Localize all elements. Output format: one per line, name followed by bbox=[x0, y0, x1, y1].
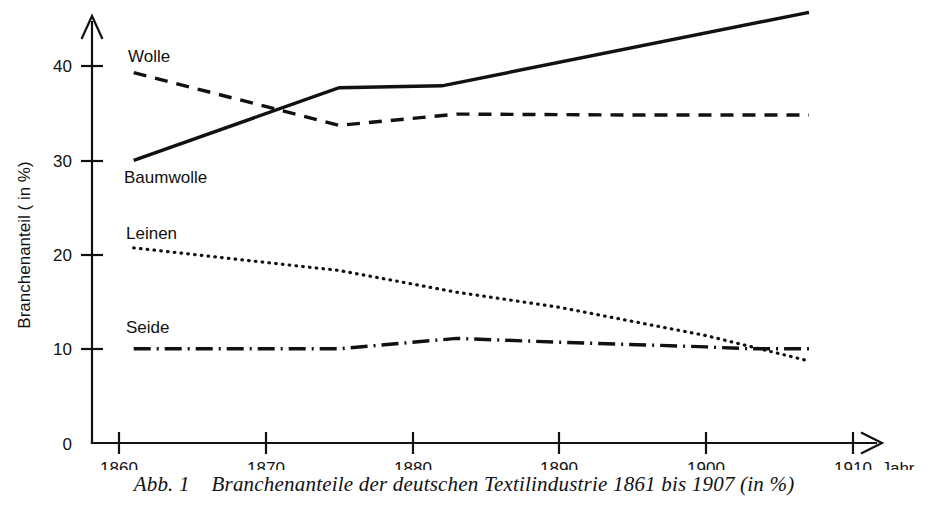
y-tick-label-20: 20 bbox=[53, 246, 72, 265]
x-tick-label-1900: 1900 bbox=[687, 459, 725, 470]
y-tick-label-0: 0 bbox=[63, 435, 72, 454]
series-line-leinen bbox=[134, 248, 809, 361]
series-line-baumwolle bbox=[134, 12, 809, 160]
x-tick-label-1870: 1870 bbox=[247, 459, 285, 470]
series-line-seide bbox=[134, 338, 809, 348]
series-label-seide: Seide bbox=[126, 318, 169, 337]
x-tick-label-1890: 1890 bbox=[540, 459, 578, 470]
y-axis: 40 30 20 10 0 Branchenanteil ( in %) bbox=[15, 16, 103, 454]
figure-caption: Abb. 1 Branchenanteile der deutschen Tex… bbox=[0, 472, 928, 497]
series-label-wolle: Wolle bbox=[128, 47, 170, 66]
line-chart: 40 30 20 10 0 Branchenanteil ( in %) 186… bbox=[0, 0, 928, 470]
x-tick-label-1910: 1910 bbox=[834, 459, 872, 470]
series-group bbox=[134, 12, 809, 361]
series-labels: Wolle Baumwolle Leinen Seide bbox=[124, 47, 207, 337]
figure-container: 40 30 20 10 0 Branchenanteil ( in %) 186… bbox=[0, 0, 928, 512]
x-tick-label-1880: 1880 bbox=[394, 459, 432, 470]
series-label-baumwolle: Baumwolle bbox=[124, 168, 207, 187]
y-tick-label-30: 30 bbox=[53, 152, 72, 171]
y-tick-label-10: 10 bbox=[53, 340, 72, 359]
x-axis-title: Jahr bbox=[881, 459, 914, 470]
y-tick-label-40: 40 bbox=[53, 57, 72, 76]
series-label-leinen: Leinen bbox=[126, 224, 177, 243]
x-axis: 1860 1870 1880 1890 1900 1910 Jahr bbox=[92, 432, 915, 470]
x-tick-label-1860: 1860 bbox=[100, 459, 138, 470]
y-axis-title: Branchenanteil ( in %) bbox=[15, 161, 34, 328]
